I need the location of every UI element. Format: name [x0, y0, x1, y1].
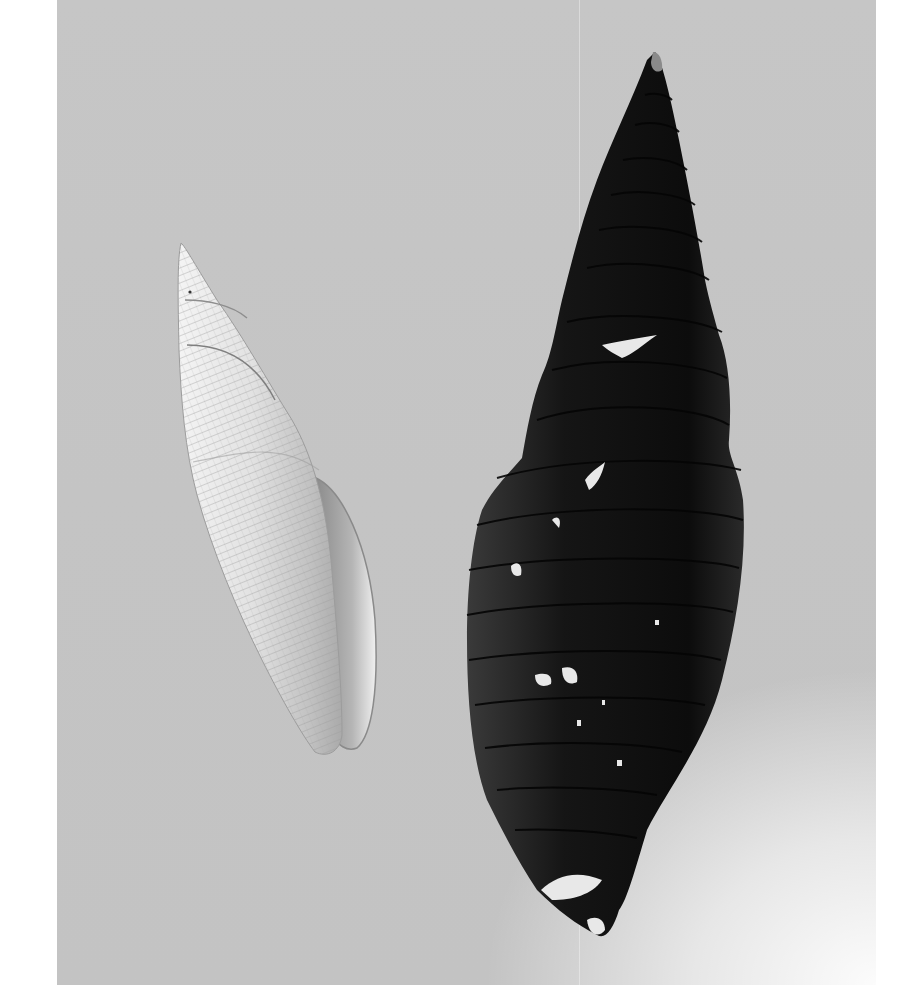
dark-shell-body — [467, 52, 744, 936]
light-shell-spot — [188, 290, 191, 293]
photograph — [57, 0, 876, 985]
light-shell-texture — [178, 243, 342, 754]
dark-shell — [467, 52, 744, 936]
light-shell — [178, 243, 376, 754]
shells-illustration — [57, 0, 876, 985]
